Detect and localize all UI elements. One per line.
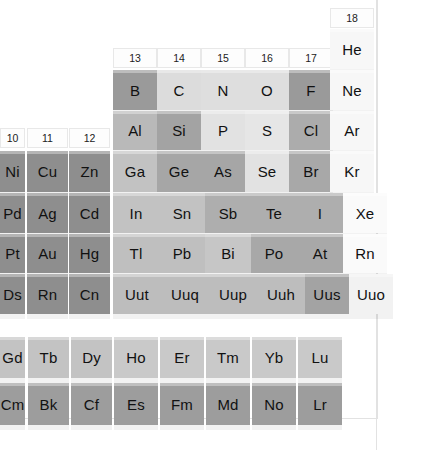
element-cell-s-10[interactable]: S xyxy=(245,111,289,150)
element-cell-lr-64[interactable]: Lr xyxy=(298,383,342,425)
element-cell-p-9[interactable]: P xyxy=(201,111,245,150)
element-cell-pb-35[interactable]: Pb xyxy=(159,234,205,273)
element-cell-fm-61[interactable]: Fm xyxy=(160,383,204,425)
element-cell-se-19[interactable]: Se xyxy=(245,151,289,192)
element-cell-o-4[interactable]: O xyxy=(245,70,289,110)
element-cell-br-20[interactable]: Br xyxy=(289,151,333,192)
element-cell-al-7[interactable]: Al xyxy=(113,111,157,150)
element-cell-ag-23[interactable]: Ag xyxy=(27,193,68,233)
element-cell-cl-11[interactable]: Cl xyxy=(289,111,333,150)
element-cell-uuo-48[interactable]: Uuo xyxy=(349,274,393,314)
element-cell-rn-39[interactable]: Rn xyxy=(343,234,387,273)
element-cell-no-63[interactable]: No xyxy=(252,383,296,425)
element-cell-cf-59[interactable]: Cf xyxy=(71,383,112,425)
group-header-18[interactable]: 18 xyxy=(330,8,374,28)
element-cell-ge-17[interactable]: Ge xyxy=(157,151,201,192)
periodic-table-diagram: 101112131415161718 HeBCNOFNeAlSiPSClArNi… xyxy=(0,0,426,450)
element-cell-ga-16[interactable]: Ga xyxy=(113,151,157,192)
element-cell-f-5[interactable]: F xyxy=(289,70,333,110)
element-cell-uus-47[interactable]: Uus xyxy=(305,274,349,314)
group-header-10[interactable]: 10 xyxy=(0,128,25,148)
element-cell-gd-49[interactable]: Gd xyxy=(0,337,25,378)
group-header-14[interactable]: 14 xyxy=(157,48,201,68)
element-cell-rn-41[interactable]: Rn xyxy=(27,274,68,314)
element-cell-uuq-44[interactable]: Uuq xyxy=(161,274,209,314)
element-cell-at-38[interactable]: At xyxy=(297,234,343,273)
element-cell-in-25[interactable]: In xyxy=(113,193,159,233)
element-cell-ds-40[interactable]: Ds xyxy=(0,274,25,314)
element-cell-cu-14[interactable]: Cu xyxy=(27,151,68,192)
element-cell-md-62[interactable]: Md xyxy=(206,383,250,425)
element-cell-tl-34[interactable]: Tl xyxy=(113,234,159,273)
element-cell-uuh-46[interactable]: Uuh xyxy=(257,274,305,314)
element-cell-pd-22[interactable]: Pd xyxy=(0,193,25,233)
element-cell-n-3[interactable]: N xyxy=(201,70,245,110)
element-cell-yb-55[interactable]: Yb xyxy=(252,337,296,378)
element-cell-xe-30[interactable]: Xe xyxy=(343,193,387,233)
group-header-17[interactable]: 17 xyxy=(289,48,333,68)
element-cell-sb-27[interactable]: Sb xyxy=(205,193,251,233)
element-cell-cd-24[interactable]: Cd xyxy=(69,193,110,233)
group-header-16[interactable]: 16 xyxy=(245,48,289,68)
element-cell-cm-57[interactable]: Cm xyxy=(0,383,25,425)
element-cell-si-8[interactable]: Si xyxy=(157,111,201,150)
element-cell-zn-15[interactable]: Zn xyxy=(69,151,110,192)
element-cell-as-18[interactable]: As xyxy=(201,151,245,192)
element-cell-ar-12[interactable]: Ar xyxy=(330,111,374,150)
element-cell-ni-13[interactable]: Ni xyxy=(0,151,25,192)
element-cell-he-0[interactable]: He xyxy=(330,29,374,69)
element-cell-tm-54[interactable]: Tm xyxy=(206,337,250,378)
group-header-11[interactable]: 11 xyxy=(27,128,68,148)
element-cell-bk-58[interactable]: Bk xyxy=(28,383,69,425)
element-cell-uup-45[interactable]: Uup xyxy=(209,274,257,314)
element-cell-dy-51[interactable]: Dy xyxy=(71,337,112,378)
element-cell-te-28[interactable]: Te xyxy=(251,193,297,233)
element-cell-ne-6[interactable]: Ne xyxy=(330,70,374,110)
element-cell-lu-56[interactable]: Lu xyxy=(298,337,342,378)
element-cell-i-29[interactable]: I xyxy=(297,193,343,233)
element-cell-b-1[interactable]: B xyxy=(113,70,157,110)
element-cell-pt-31[interactable]: Pt xyxy=(0,234,25,273)
element-cell-kr-21[interactable]: Kr xyxy=(330,151,374,192)
element-cell-bi-36[interactable]: Bi xyxy=(205,234,251,273)
element-cell-es-60[interactable]: Es xyxy=(114,383,158,425)
element-cell-cn-42[interactable]: Cn xyxy=(69,274,110,314)
element-cell-c-2[interactable]: C xyxy=(157,70,201,110)
element-cell-ho-52[interactable]: Ho xyxy=(114,337,158,378)
element-cell-hg-33[interactable]: Hg xyxy=(69,234,110,273)
element-cell-er-53[interactable]: Er xyxy=(160,337,204,378)
group-header-13[interactable]: 13 xyxy=(113,48,157,68)
element-cell-sn-26[interactable]: Sn xyxy=(159,193,205,233)
element-cell-tb-50[interactable]: Tb xyxy=(28,337,69,378)
group-header-15[interactable]: 15 xyxy=(201,48,245,68)
group-header-12[interactable]: 12 xyxy=(69,128,110,148)
element-cell-au-32[interactable]: Au xyxy=(27,234,68,273)
element-cell-uut-43[interactable]: Uut xyxy=(113,274,161,314)
element-cell-po-37[interactable]: Po xyxy=(251,234,297,273)
